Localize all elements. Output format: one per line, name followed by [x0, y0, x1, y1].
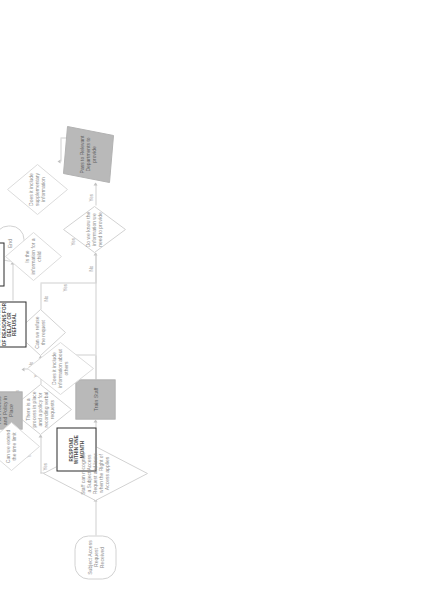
node-decision-recognise-label: Staff can recognise a Subject Access Req…	[80, 445, 109, 501]
flowchart-canvas: No Yes No Yes Yes No No Yes No No Y	[0, 0, 423, 601]
node-decision-child-label: Is the information for a child	[24, 231, 42, 281]
arrowhead	[21, 367, 24, 371]
connector-know-yes	[95, 183, 96, 205]
connector-refuse-no-v	[40, 282, 95, 283]
node-advise-subject-label: ADVISE SUBJECT OF REASONS FOR DELAY OR R…	[0, 302, 17, 346]
edge-label-know-yes: Yes	[88, 194, 93, 202]
connector-refuse-no-h	[40, 283, 41, 309]
node-decision-know-info: Do we know the information we need to pr…	[62, 205, 126, 253]
node-decision-process-label: There is a process in place and a policy…	[25, 383, 54, 435]
connector-pass-up-h	[60, 138, 61, 161]
flowchart-page: No Yes No Yes Yes No No Yes No No Y	[0, 0, 423, 601]
node-decision-child: Is the information for a child	[4, 231, 62, 281]
node-pass-to-departments-label: Pass to Relevant Departments to provide	[79, 125, 97, 183]
node-pass-to-departments: Pass to Relevant Departments to provide	[62, 125, 114, 183]
connector-start-to-recognise	[95, 499, 96, 535]
node-start: Subject Access Request Received	[74, 535, 116, 579]
node-decision-know-info-label: Do we know the information we need to pr…	[85, 205, 103, 253]
node-decision-supplementary: Does it include supplementary informatio…	[6, 163, 68, 215]
node-decision-others-label: Does it include information about others	[51, 341, 69, 395]
node-decision-refuse-label: Can we refuse the request	[34, 308, 46, 356]
node-advise-subject: ADVISE SUBJECT OF REASONS FOR DELAY OR R…	[0, 301, 26, 347]
edge-label-know-no: No	[88, 265, 93, 271]
connector-train-to-know	[95, 253, 96, 379]
edge-label-supp-yes: Yes	[62, 284, 67, 292]
node-start-label: Subject Access Request Received	[86, 538, 104, 576]
node-decision-extend-time-label: Can we extend the time limit	[5, 421, 17, 471]
node-use-clear-language: USE CLEAR AND PLAIN LANGUAGE	[0, 242, 4, 286]
edge-label-refuse-no: No	[43, 295, 48, 301]
node-decision-supplementary-label: Does it include supplementary informatio…	[28, 163, 46, 215]
